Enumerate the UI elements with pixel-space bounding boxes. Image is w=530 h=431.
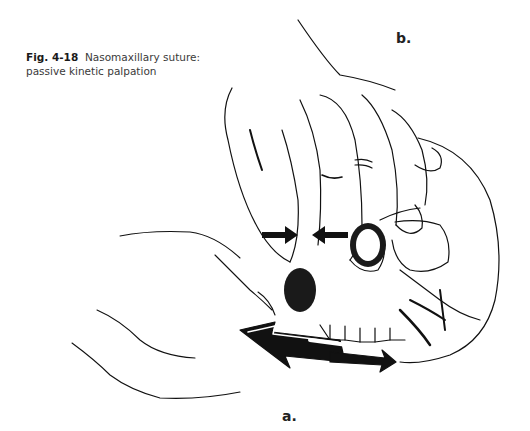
lower-hand bbox=[72, 232, 275, 399]
skull bbox=[284, 138, 499, 363]
motion-arrows bbox=[240, 322, 396, 372]
arrow-left-icon bbox=[312, 226, 348, 244]
skull-palpation-illustration bbox=[0, 0, 530, 431]
compression-arrows bbox=[262, 226, 348, 244]
arrow-right-icon bbox=[262, 226, 298, 244]
